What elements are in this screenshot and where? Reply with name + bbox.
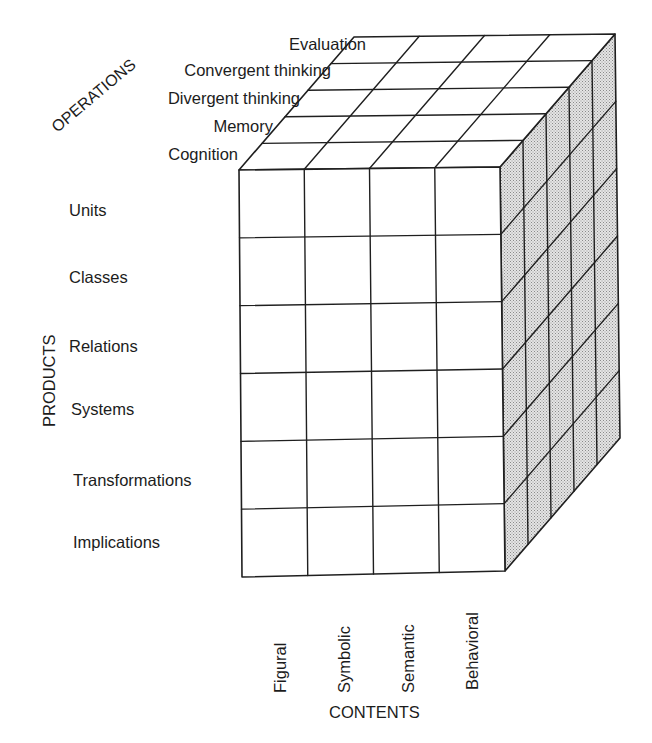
content-label-behavioral: Behavioral [464, 612, 481, 690]
product-label-transformations: Transformations [73, 472, 192, 489]
operation-label-evaluation: Evaluation [289, 36, 366, 53]
cube-diagram [0, 0, 652, 743]
operation-label-cognition: Cognition [168, 146, 238, 163]
products-axis-title: PRODUCTS [41, 334, 58, 427]
operation-label-divergent-thinking: Divergent thinking [168, 90, 300, 107]
contents-axis-title: CONTENTS [329, 704, 420, 721]
product-label-implications: Implications [73, 534, 160, 551]
operation-label-convergent-thinking: Convergent thinking [184, 62, 331, 79]
content-label-symbolic: Symbolic [336, 626, 353, 693]
product-label-relations: Relations [69, 338, 138, 355]
product-label-units: Units [69, 202, 107, 219]
cube-front-face [239, 167, 505, 577]
content-label-figural: Figural [272, 643, 289, 693]
operation-label-memory: Memory [213, 118, 273, 135]
product-label-classes: Classes [69, 269, 128, 286]
product-label-systems: Systems [71, 401, 134, 418]
content-label-semantic: Semantic [400, 624, 417, 693]
